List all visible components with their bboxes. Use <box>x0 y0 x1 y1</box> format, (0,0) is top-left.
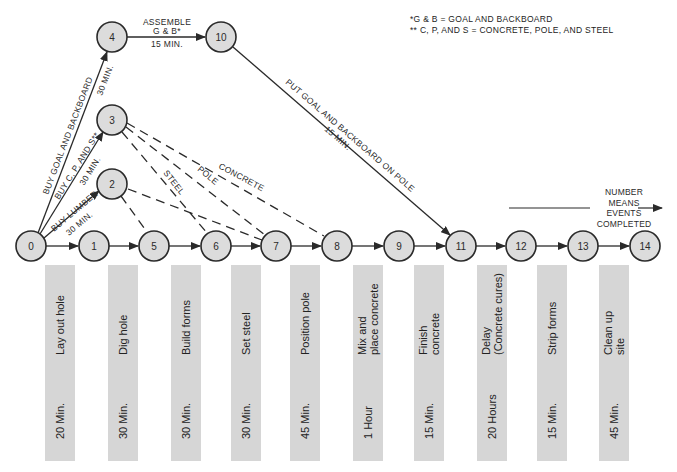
event-node-1: 1 <box>79 231 109 261</box>
activity-duration: 30 Min. <box>117 369 129 461</box>
direction-note-line: NUMBER <box>584 187 664 198</box>
svg-text:3: 3 <box>109 115 115 126</box>
event-node-8: 8 <box>322 231 352 261</box>
activity-label: Lay out hole <box>54 265 66 369</box>
event-node-9: 9 <box>384 231 414 261</box>
event-node-3: 3 <box>97 105 127 135</box>
svg-text:12: 12 <box>515 241 527 252</box>
activity-label: Dig hole <box>117 265 129 369</box>
activity-bar-position-pole: 45 Min.Position pole <box>290 265 320 461</box>
edge-label-concrete: CONCRETE <box>217 161 266 193</box>
event-node-14: 14 <box>630 231 660 261</box>
edge-label-steel: STEEL <box>161 168 186 197</box>
event-node-13: 13 <box>568 231 598 261</box>
event-node-4: 4 <box>97 22 127 52</box>
event-node-10: 10 <box>206 22 236 52</box>
activity-duration: 15 Min. <box>546 369 558 461</box>
activity-label: Strip forms <box>546 265 558 369</box>
activity-label: Clean up site <box>602 265 626 369</box>
activity-bar-clean-up-site: 45 Min.Clean up site <box>599 265 629 461</box>
activity-label: Set steel <box>240 265 252 369</box>
activity-label: Mix and place concrete <box>356 265 380 369</box>
activity-bar-dig-hole: 30 Min.Dig hole <box>108 265 138 461</box>
edge-label-put-goal: PUT GOAL AND BACKBOARD ON POLE <box>284 77 417 194</box>
svg-text:1: 1 <box>91 241 97 252</box>
direction-note: NUMBER MEANS EVENTS COMPLETED <box>584 187 664 229</box>
direction-note-line: COMPLETED <box>584 219 664 230</box>
activity-bar-finish-concrete: 15 Min.Finish concrete <box>414 265 444 461</box>
activity-label: Position pole <box>299 265 311 369</box>
activity-duration: 1 Hour <box>362 369 374 461</box>
svg-text:11: 11 <box>456 241 467 252</box>
event-node-0: 0 <box>16 231 46 261</box>
activity-duration: 30 Min. <box>180 369 192 461</box>
direction-note-line: MEANS <box>584 198 664 209</box>
event-node-11: 11 <box>446 231 476 261</box>
activity-label: Finish concrete <box>417 265 441 369</box>
direction-note-line: EVENTS <box>584 208 664 219</box>
svg-text:9: 9 <box>396 241 402 252</box>
activity-duration: 15 Min. <box>423 369 435 461</box>
activity-duration: 45 Min. <box>299 369 311 461</box>
edge-label-assemble-time: 15 MIN. <box>151 39 183 49</box>
legend-line-cps: ** C, P, AND S = CONCRETE, POLE, AND STE… <box>410 25 614 36</box>
activity-label: Build forms <box>180 265 192 369</box>
svg-text:7: 7 <box>273 241 279 252</box>
activity-duration: 20 Hours <box>486 369 498 461</box>
svg-text:13: 13 <box>577 241 589 252</box>
edge-label-buy-goal-time: 30 MIN. <box>95 63 116 96</box>
event-node-7: 7 <box>261 231 291 261</box>
activity-bar-delay: 20 HoursDelay (Concrete cures) <box>477 265 507 461</box>
svg-text:0: 0 <box>28 241 34 252</box>
svg-text:10: 10 <box>215 32 227 43</box>
pert-network: BUY GOAL AND BACKBOARD 30 MIN. BUY C, P,… <box>0 0 677 472</box>
activity-bar-mix-place-concrete: 1 HourMix and place concrete <box>353 265 383 461</box>
svg-text:4: 4 <box>109 32 115 43</box>
svg-text:8: 8 <box>334 241 340 252</box>
svg-text:5: 5 <box>151 241 157 252</box>
activity-bar-strip-forms: 15 Min.Strip forms <box>537 265 567 461</box>
activity-duration: 20 Min. <box>54 369 66 461</box>
activity-label: Delay (Concrete cures) <box>480 265 504 369</box>
activity-duration: 30 Min. <box>240 369 252 461</box>
activity-bar-lay-out-hole: 20 Min.Lay out hole <box>45 265 75 461</box>
activity-bar-build-forms: 30 Min.Build forms <box>171 265 201 461</box>
activity-duration: 45 Min. <box>608 369 620 461</box>
event-node-12: 12 <box>506 231 536 261</box>
edge-label-assemble-gb: G & B* <box>153 26 181 36</box>
dependency-dashes <box>121 123 324 240</box>
event-node-2: 2 <box>97 169 127 199</box>
legend-line-gb: *G & B = GOAL AND BACKBOARD <box>410 14 614 25</box>
event-node-6: 6 <box>201 231 231 261</box>
svg-text:6: 6 <box>213 241 219 252</box>
svg-text:14: 14 <box>639 241 651 252</box>
event-node-5: 5 <box>139 231 169 261</box>
abbreviation-legend: *G & B = GOAL AND BACKBOARD ** C, P, AND… <box>410 14 614 36</box>
svg-text:2: 2 <box>109 179 115 190</box>
activity-bar-set-steel: 30 Min.Set steel <box>231 265 261 461</box>
